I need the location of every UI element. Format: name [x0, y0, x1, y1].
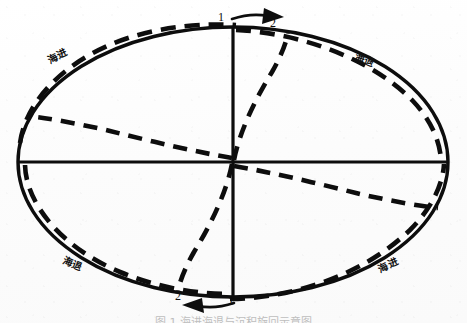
- dashed-arc-upper-left: [20, 24, 236, 143]
- dashed-radial-upper-right: [234, 33, 288, 160]
- bottom-arrow: [182, 298, 234, 313]
- dashed-radial-lower-left: [178, 164, 232, 291]
- marker-bottom-right-number: 1: [228, 294, 234, 309]
- figure-caption: 图 1 海进海退与沉积旋回示意图: [0, 316, 467, 323]
- dashed-radial-lower-right: [234, 166, 438, 208]
- dashed-radial-upper-left: [28, 116, 232, 158]
- marker-top-right-number: 2: [270, 16, 276, 31]
- top-arrow: [232, 8, 284, 24]
- dashed-arc-upper-right: [236, 30, 441, 160]
- marker-top-left-number: 1: [218, 10, 224, 25]
- dashed-arc-lower-left: [25, 165, 230, 294]
- figure-container: 海进 海退 海退 海进 1 2 2 1 图 1 海进海退与沉积旋回示意图: [0, 0, 467, 323]
- marker-bottom-left-number: 2: [175, 289, 181, 304]
- ellipse-diagram: [0, 0, 467, 323]
